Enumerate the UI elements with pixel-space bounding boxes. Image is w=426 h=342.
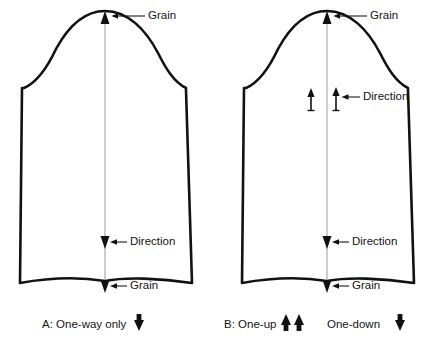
panel-a-group: Grain Direction Grain	[20, 9, 192, 293]
caption-a-down-arrow-icon	[134, 314, 144, 331]
caption-b-up-arrow-icon-2	[294, 314, 304, 331]
caption-a-group: A: One-way only	[42, 314, 144, 331]
caption-b-down-arrow-icon	[395, 314, 405, 331]
grain-arrow-bottom-b	[323, 280, 332, 293]
caption-a-label: A: One-way only	[42, 318, 127, 330]
grain-label-bottom-b: Grain	[352, 279, 380, 291]
panel-b-group: Grain Direction Direction	[242, 9, 414, 293]
caption-b-group: B: One-up One-down	[224, 314, 405, 331]
diagram-canvas: Grain Direction Grain	[0, 0, 426, 342]
grain-leader-arrowhead-bottom-b	[332, 283, 339, 289]
grain-label-bottom-a: Grain	[130, 279, 158, 291]
caption-b-secondary-label: One-down	[327, 318, 380, 330]
direction-label-middle-b: Direction	[363, 90, 408, 102]
grain-leader-arrowhead-bottom-a	[110, 283, 117, 289]
grain-label-top-a: Grain	[148, 9, 176, 21]
caption-b-label: B: One-up	[224, 318, 276, 330]
pattern-diagram: Grain Direction Grain	[0, 0, 426, 342]
direction-label-bottom-b: Direction	[352, 235, 397, 247]
grain-label-top-b: Grain	[370, 9, 398, 21]
caption-b-up-arrow-icon-1	[281, 314, 291, 331]
direction-label-a: Direction	[130, 235, 175, 247]
grain-arrow-bottom-a	[101, 280, 110, 293]
